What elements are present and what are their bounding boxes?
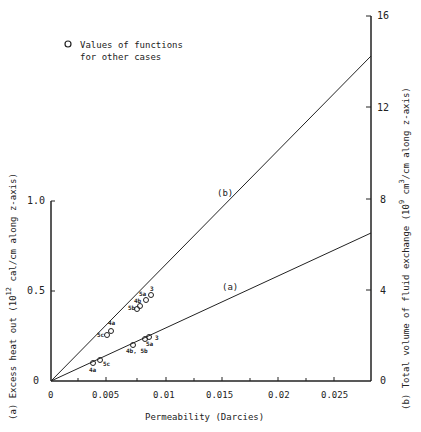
x-axis-label: Permeability (Darcies)	[145, 412, 264, 422]
series-a-line	[51, 233, 371, 381]
x-tick-0.02: 0.02	[268, 390, 290, 400]
y-left-tick-0.5: 0.5	[27, 285, 45, 296]
x-tick-0.015: 0.015	[206, 390, 233, 400]
legend-line1: Values of functions	[80, 40, 183, 50]
legend-marker-icon	[65, 41, 71, 47]
chart: Values of functions for other cases 0 0.…	[0, 0, 421, 432]
x-tick-0.025: 0.025	[321, 390, 348, 400]
y-right-tick-0: 0	[380, 375, 386, 386]
series-b-points	[105, 293, 154, 338]
y-right-tick-8: 8	[380, 194, 386, 205]
point-a-4a: 4a	[89, 366, 97, 373]
point-b-4a: 4a	[108, 319, 116, 326]
y-right-axis-label: (b) Total volume of fluid exchange (109 …	[398, 87, 411, 410]
y-left-axis-label: (a) Excess heat out (1012 cal/cm along z…	[5, 173, 18, 420]
point-b-5a: 5a	[139, 290, 147, 297]
legend-line2: for other cases	[80, 52, 161, 62]
y-left-tick-1.0: 1.0	[27, 195, 45, 206]
series-a-label: (a)	[222, 282, 238, 292]
point-b-5b: 5b	[128, 304, 136, 311]
x-tick-0.01: 0.01	[153, 390, 175, 400]
point-a-5c: 5c	[103, 360, 111, 367]
point-a-3: 3	[155, 334, 159, 341]
x-tick-0.005: 0.005	[92, 390, 119, 400]
point-b-3: 3	[150, 285, 154, 292]
point-b-5c: 5c	[97, 331, 105, 338]
series-b-label: (b)	[217, 188, 233, 198]
y-left-tick-0: 0	[33, 375, 39, 386]
x-tick-0: 0	[48, 390, 53, 400]
y-right-tick-4: 4	[380, 285, 386, 296]
point-a-5a: 5a	[146, 340, 154, 347]
chart-svg: Values of functions for other cases 0 0.…	[0, 0, 421, 432]
point-b-4b: 4b	[134, 297, 142, 304]
y-right-tick-12: 12	[377, 102, 389, 113]
y-right-tick-16: 16	[377, 10, 389, 21]
point-a-4b5b: 4b, 5b	[126, 347, 148, 354]
